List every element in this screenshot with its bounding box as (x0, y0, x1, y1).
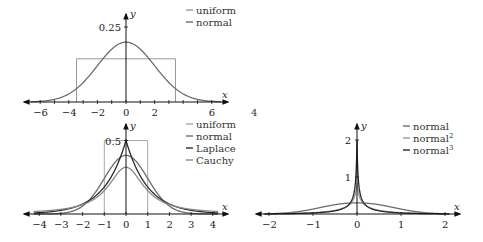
y-tick-label: 2 (345, 135, 351, 146)
x-tick-label: −6 (33, 107, 48, 118)
x-tick-label: 2 (166, 219, 172, 230)
legend-label-normal: normal (196, 131, 232, 142)
x-tick-label: −3 (54, 219, 69, 230)
legend-label-normal3: normal3 (413, 144, 453, 156)
stray-panel-number: 4 (251, 107, 257, 118)
legend-label-cauchy: Cauchy (196, 155, 234, 166)
x-tick-label: 4 (210, 219, 216, 230)
x-tick-label: −4 (32, 219, 47, 230)
x-tick-label: 0 (354, 219, 360, 230)
top-legend: uniformnormal (186, 5, 237, 28)
x-tick-label: 0 (123, 219, 129, 230)
top-ticks: −6−4−20260.25 (33, 22, 215, 118)
y-tick-label: 1 (345, 172, 351, 183)
bottom-right-panel-plot: −2−101212 x y normalnormal2normal3 (256, 120, 460, 230)
legend-label-normal: normal (413, 121, 449, 132)
legend-label-normal2: normal2 (413, 132, 453, 144)
bottom-left-y-axis-label: y (129, 120, 136, 131)
legend-label-normal: normal (196, 17, 232, 28)
x-tick-label: −1 (97, 219, 112, 230)
top-y-axis-label: y (129, 8, 136, 19)
x-tick-label: 1 (145, 219, 151, 230)
legend-label-uniform: uniform (196, 5, 237, 16)
x-tick-label: 2 (152, 107, 158, 118)
bottom-left-ticks: −4−3−2−1012340.5 (32, 136, 216, 231)
x-tick-label: −2 (76, 219, 91, 230)
bottom-left-legend: uniformnormalLaplaceCauchy (186, 119, 237, 166)
x-tick-label: 0 (123, 107, 129, 118)
bottom-right-y-axis-label: y (360, 120, 367, 131)
top-x-axis-label: x (222, 89, 228, 100)
bottom-right-x-axis-label: x (454, 201, 460, 212)
chart-canvas: −6−4−20260.25 x y uniformnormal −4−3−2−1… (0, 0, 483, 242)
x-tick-label: 1 (398, 219, 404, 230)
bottom-left-panel-plot: −4−3−2−1012340.5 x y uniformnormalLaplac… (24, 119, 237, 231)
y-tick-label: 0.25 (99, 22, 121, 33)
x-tick-label: −1 (306, 219, 321, 230)
legend-label-laplace: Laplace (196, 143, 236, 154)
x-tick-label: −4 (62, 107, 77, 118)
bottom-left-x-axis-label: x (222, 201, 228, 212)
x-tick-label: 2 (442, 219, 448, 230)
y-tick-label: 0.5 (105, 136, 121, 147)
x-tick-label: 3 (188, 219, 194, 230)
x-tick-label: −2 (90, 107, 105, 118)
top-panel-plot: −6−4−20260.25 x y uniformnormal (24, 5, 237, 119)
legend-label-uniform: uniform (196, 119, 237, 130)
x-tick-label: −2 (262, 219, 277, 230)
x-tick-label: 6 (209, 107, 215, 118)
bottom-right-legend: normalnormal2normal3 (403, 121, 453, 156)
